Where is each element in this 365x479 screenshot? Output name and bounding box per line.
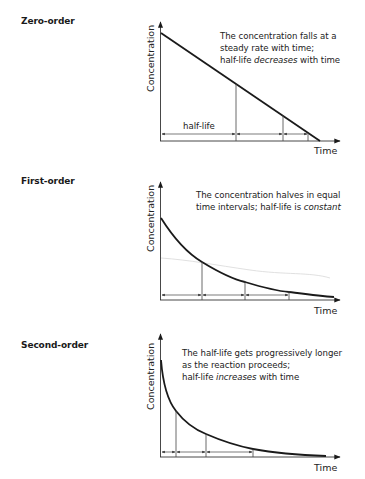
x-axis-label: Time <box>314 305 337 316</box>
first-order-chart <box>0 0 365 479</box>
second-order-title: Second-order <box>21 340 88 350</box>
y-axis-label: Concentration <box>145 185 156 252</box>
first-order-description: The concentration halves in equal time i… <box>196 189 341 213</box>
first-order-panel: First-order Concentration Time The conce… <box>0 0 365 479</box>
x-axis-label: Time <box>314 462 337 473</box>
y-axis-label: Concentration <box>145 343 156 410</box>
concentration-curve <box>161 218 334 297</box>
second-order-description: The half-life gets progressively longer … <box>182 347 342 384</box>
